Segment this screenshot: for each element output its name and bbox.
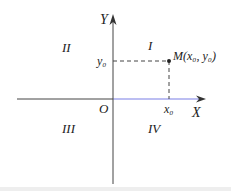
coordinate-plane: Y X O II I III IV M(x₀, y₀) y₀ x₀ — [0, 0, 231, 191]
x-axis-label: X — [191, 105, 201, 120]
y0-tick-label: y₀ — [96, 54, 107, 68]
point-m-label: M(x₀, y₀) — [172, 49, 216, 63]
x0-tick-label: x₀ — [163, 102, 174, 116]
origin-label: O — [99, 101, 109, 116]
quadrant-1-label: I — [147, 38, 153, 53]
quadrant-3-label: III — [61, 121, 76, 136]
quadrant-4-label: IV — [147, 121, 162, 136]
bottom-band — [0, 187, 231, 191]
quadrant-2-label: II — [61, 40, 71, 55]
y-axis-label: Y — [100, 12, 110, 27]
point-m — [167, 59, 171, 63]
